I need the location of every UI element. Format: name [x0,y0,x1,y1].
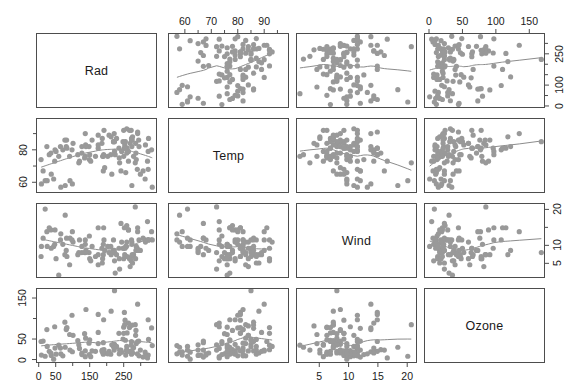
right-tick-label-wind-10: 10 [551,240,563,252]
data-point [434,167,439,172]
data-point [63,345,68,350]
data-point [233,317,238,322]
data-point [58,345,63,350]
data-point [331,87,336,92]
data-point [101,225,106,230]
data-point [324,64,329,69]
data-point [427,176,432,181]
data-point [267,63,272,68]
data-point [251,71,256,76]
data-point [344,137,349,142]
data-point [129,237,134,242]
data-point [56,154,61,159]
data-point [106,133,111,138]
data-point [267,347,272,352]
data-point [219,44,224,49]
data-point [75,338,80,343]
data-point [334,172,339,177]
data-point [480,242,485,247]
data-point [83,144,88,149]
data-point [466,141,471,146]
data-point [378,49,383,54]
scatterplot-matrix: RadTempWindOzone607080900501001500501502… [0,0,575,390]
data-point [442,168,447,173]
data-point [505,134,510,139]
data-point [113,152,118,157]
data-point [264,43,269,48]
data-point [442,266,447,271]
data-point [361,157,366,162]
data-point [491,237,496,242]
data-point [466,44,471,49]
scatter-panel-wind-vs-temp [296,118,417,193]
data-point [508,144,513,149]
data-point [344,178,349,183]
data-point [341,167,346,172]
data-point [240,229,245,234]
data-point [201,338,206,343]
data-point [437,96,442,101]
data-point [491,64,496,69]
data-point [124,223,129,228]
data-point [440,254,445,259]
data-point [233,240,238,245]
data-point [491,36,496,41]
data-point [185,98,190,103]
data-point [328,69,333,74]
scatter-panel-temp-vs-wind [168,203,289,278]
data-point [446,152,451,157]
data-point [334,59,339,64]
data-point [355,57,360,62]
data-point [470,49,475,54]
data-point [365,185,370,190]
data-point [368,83,373,88]
data-point [355,317,360,322]
data-point [355,159,360,164]
data-point [135,167,140,172]
top-tick-label-temp-70: 70 [205,15,217,27]
data-point [475,98,480,103]
data-point [317,348,322,353]
data-point [225,349,230,354]
data-point [119,240,124,245]
data-point [174,34,179,39]
data-point [539,250,544,255]
data-point [243,67,248,72]
data-point [466,256,471,261]
data-point [217,71,222,76]
data-point [267,325,272,330]
data-point [328,349,333,354]
scatter-panel-temp-vs-ozone [168,288,289,363]
data-point [456,237,461,242]
data-point [405,354,410,359]
data-point [136,144,141,149]
data-point [436,244,441,249]
data-point [130,322,135,327]
data-point [230,227,235,232]
data-point [505,59,510,64]
data-point [259,67,264,72]
data-point [324,44,329,49]
data-point [43,206,48,211]
data-point [185,244,190,249]
data-point [143,176,148,181]
data-point [100,154,105,159]
panel-plot-area [37,289,156,362]
data-point [442,178,447,183]
data-point [338,327,343,332]
data-point [174,351,179,356]
data-point [136,237,141,242]
data-point [225,254,230,259]
data-point [338,131,343,136]
data-point [453,72,458,77]
data-point [456,129,461,134]
data-point [481,264,486,269]
data-point [361,72,366,77]
data-point [233,36,238,41]
data-point [448,98,453,103]
data-point [355,128,360,133]
data-point [251,46,256,51]
data-point [77,159,82,164]
data-point [243,51,248,56]
data-point [83,248,88,253]
